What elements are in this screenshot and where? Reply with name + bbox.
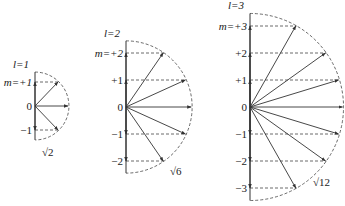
m-label: 0 xyxy=(27,100,33,112)
m-label: −1 xyxy=(20,124,32,136)
m-label: m=+1 xyxy=(4,76,32,88)
momentum-vector xyxy=(35,106,58,130)
momentum-vector xyxy=(35,82,58,106)
panel-l3: l=3m=+3+2+10−1−2−3√12 xyxy=(219,0,344,201)
m-label: −2 xyxy=(235,155,247,167)
angular-momentum-diagram: l=1m=+10−1√2l=2m=+2+10−1−2√6l=3m=+3+2+10… xyxy=(0,0,345,206)
m-label: −1 xyxy=(235,128,247,140)
panel-l2: l=2m=+2+10−1−2√6 xyxy=(95,27,192,177)
magnitude-label: √12 xyxy=(313,176,330,188)
m-label: −1 xyxy=(111,128,123,140)
m-label: 0 xyxy=(118,101,124,113)
m-label: −2 xyxy=(111,155,123,167)
l-label: l=3 xyxy=(228,0,244,11)
l-label: l=1 xyxy=(13,58,29,70)
m-label: +1 xyxy=(111,74,123,86)
m-label: 0 xyxy=(242,101,248,113)
m-label: +1 xyxy=(235,74,247,86)
m-label: +2 xyxy=(235,47,247,59)
magnitude-label: √2 xyxy=(42,146,54,158)
l-label: l=2 xyxy=(104,27,120,39)
m-label: −3 xyxy=(235,182,247,194)
panel-l1: l=1m=+10−1√2 xyxy=(4,58,69,158)
magnitude-label: √6 xyxy=(170,165,182,177)
m-label: m=+3 xyxy=(219,20,248,32)
m-label: m=+2 xyxy=(95,47,124,59)
